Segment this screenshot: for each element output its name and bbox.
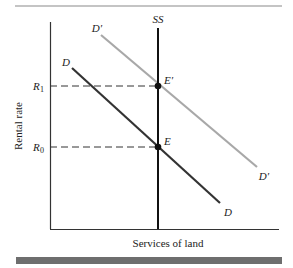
demand-shifted-end-label: D′ [258,170,270,182]
svg-text:1: 1 [40,85,44,94]
svg-text:R: R [32,80,40,92]
bottom-bar [16,257,282,264]
price-label-r1: R 1 [32,80,44,94]
supply-label: SS [153,13,165,25]
price-label-r0: R 0 [32,141,44,155]
svg-text:R: R [32,141,40,153]
equilibrium-point-e-prime [155,83,162,90]
demand-original-top-label: D [61,56,70,68]
svg-text:0: 0 [40,146,44,155]
demand-original-end-label: D [223,206,232,218]
land-rental-diagram: SS D′ D D′ D E′ E R 1 R 0 Rental rate Se… [0,0,293,268]
axes [50,22,279,230]
demand-shifted-top-label: D′ [91,22,103,34]
equilibrium-label-e: E [163,135,171,147]
demand-curve-original [72,68,220,203]
x-axis-title: Services of land [133,237,204,249]
y-axis-title: Rental rate [12,102,24,150]
demand-curve-shifted [101,35,257,167]
equilibrium-label-e-prime: E′ [163,74,174,86]
equilibrium-point-e [155,144,162,151]
